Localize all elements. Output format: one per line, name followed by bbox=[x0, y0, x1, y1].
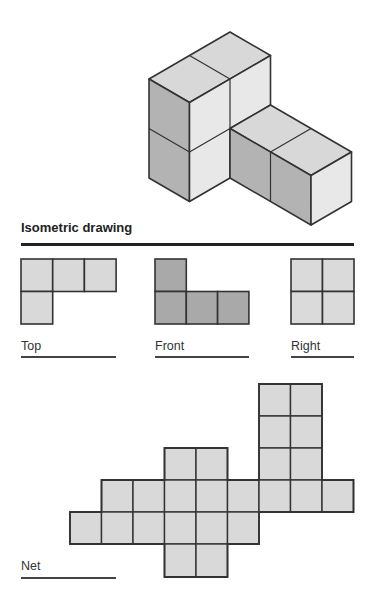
isometric-drawing-label: Isometric drawing bbox=[21, 221, 132, 235]
right-view-underline bbox=[291, 356, 354, 358]
front-view-label: Front bbox=[155, 339, 184, 353]
net-underline bbox=[21, 577, 116, 579]
isometric-divider bbox=[21, 243, 354, 246]
top-view-label: Top bbox=[21, 339, 41, 353]
net-label: Net bbox=[21, 559, 40, 573]
right-view bbox=[291, 259, 354, 324]
isometric-drawing bbox=[0, 0, 371, 599]
front-view-underline bbox=[155, 356, 249, 358]
front-view bbox=[155, 259, 249, 324]
top-view bbox=[21, 259, 116, 324]
top-view-underline bbox=[21, 356, 116, 358]
right-view-label: Right bbox=[291, 339, 320, 353]
